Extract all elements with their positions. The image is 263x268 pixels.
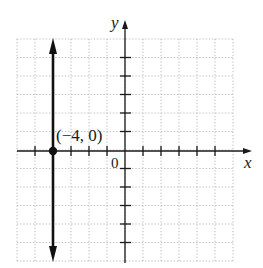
line-bottom-arrow-icon bbox=[49, 246, 57, 262]
y-axis-label: y bbox=[109, 13, 119, 32]
coordinate-plane: (−4, 0) 0 x y bbox=[0, 0, 263, 268]
point-marker bbox=[49, 147, 57, 155]
point-label: (−4, 0) bbox=[56, 126, 102, 145]
y-axis-arrow-icon bbox=[122, 20, 128, 29]
origin-label: 0 bbox=[111, 155, 119, 171]
line-top-arrow-icon bbox=[49, 38, 57, 54]
x-axis-label: x bbox=[243, 153, 252, 172]
y-axis bbox=[120, 20, 131, 263]
